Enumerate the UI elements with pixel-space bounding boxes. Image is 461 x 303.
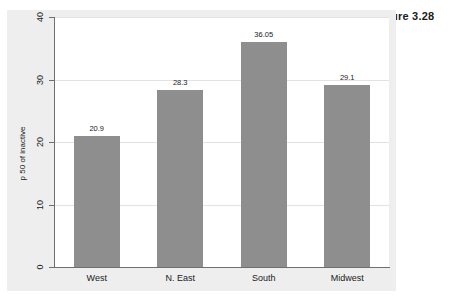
- bar-value-label: 20.9: [67, 124, 127, 133]
- y-axis-tick: [49, 267, 54, 268]
- x-axis-tick-label: South: [224, 273, 304, 283]
- bar-value-label: 36.05: [234, 30, 294, 39]
- bar-value-label: 28.3: [150, 78, 210, 87]
- y-axis-title: p 50 of inactive: [16, 108, 30, 198]
- y-axis-tick-label-text: 40: [35, 12, 45, 22]
- y-axis-line: [54, 17, 55, 268]
- bar-value-label: 29.1: [317, 73, 377, 82]
- bar: [157, 90, 203, 267]
- gridline: [55, 17, 389, 18]
- y-axis-tick-label: 20: [33, 135, 47, 149]
- y-axis-tick-label-text: 30: [35, 74, 45, 84]
- y-axis-title-label: p 50 of inactive: [19, 126, 28, 180]
- y-axis-tick-label-text: 0: [35, 264, 45, 269]
- x-axis-tick-label: West: [57, 273, 137, 283]
- y-axis-tick: [49, 80, 54, 81]
- y-axis-tick-label-text: 10: [35, 199, 45, 209]
- y-axis-tick-label: 0: [33, 260, 47, 274]
- y-axis-tick-label-text: 20: [35, 137, 45, 147]
- y-axis-tick: [49, 142, 54, 143]
- x-axis-tick-label: N. East: [140, 273, 220, 283]
- y-axis-tick: [49, 205, 54, 206]
- y-axis-tick-label: 10: [33, 198, 47, 212]
- y-axis-tick-label: 30: [33, 73, 47, 87]
- chart-panel: 20.928.336.0529.1 010203040 p 50 of inac…: [7, 10, 396, 291]
- x-axis-line: [54, 267, 390, 268]
- bar: [74, 136, 120, 267]
- plot-area: 20.928.336.0529.1: [55, 17, 389, 267]
- y-axis-tick: [49, 17, 54, 18]
- y-axis-tick-label: 40: [33, 10, 47, 24]
- x-axis-tick-label: Midwest: [307, 273, 387, 283]
- bar: [324, 85, 370, 267]
- bar: [241, 42, 287, 267]
